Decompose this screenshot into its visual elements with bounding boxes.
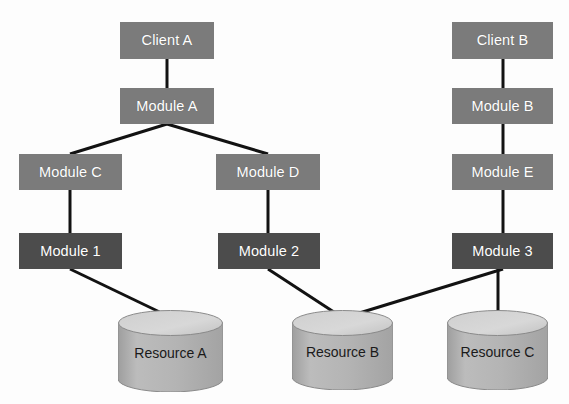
node-module_e[interactable]: Module E: [452, 154, 553, 190]
node-module_1[interactable]: Module 1: [19, 233, 122, 269]
node-module_b[interactable]: Module B: [452, 88, 553, 124]
node-label: Module A: [136, 99, 197, 114]
cylinder-shape: [292, 310, 393, 390]
connector-line: [70, 124, 167, 154]
cylinder-shape: [447, 310, 548, 390]
node-client_a[interactable]: Client A: [120, 22, 214, 59]
node-resource_a[interactable]: Resource A: [118, 310, 223, 392]
node-label: Module 2: [239, 244, 299, 259]
node-module_d[interactable]: Module D: [216, 154, 320, 190]
connector-line: [167, 124, 268, 154]
cylinder-shape: [118, 310, 223, 392]
node-label: Client A: [142, 33, 193, 48]
node-label: Module 1: [40, 244, 100, 259]
node-label: Module E: [471, 165, 533, 180]
node-client_b[interactable]: Client B: [452, 22, 553, 59]
architecture-diagram: Client AModule AModule CModule DModule 1…: [0, 0, 569, 404]
node-label: Module C: [39, 165, 102, 180]
node-resource_b[interactable]: Resource B: [292, 310, 393, 390]
cylinder-top: [448, 311, 548, 336]
node-module_2[interactable]: Module 2: [218, 233, 320, 269]
node-label: Module 3: [472, 244, 532, 259]
node-label: Module B: [471, 99, 533, 114]
node-label: Module D: [237, 165, 300, 180]
node-label: Client B: [477, 33, 529, 48]
node-resource_c[interactable]: Resource C: [447, 310, 548, 390]
node-module_c[interactable]: Module C: [19, 154, 122, 190]
cylinder-top: [119, 311, 223, 336]
node-module_a[interactable]: Module A: [120, 88, 214, 124]
node-module_3[interactable]: Module 3: [452, 233, 553, 269]
cylinder-top: [293, 311, 393, 336]
